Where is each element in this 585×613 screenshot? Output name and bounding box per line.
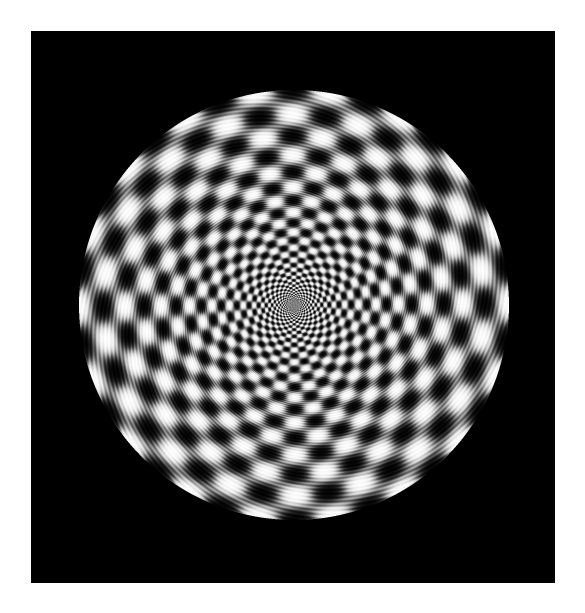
radial-grating-canvas <box>31 31 555 583</box>
stimulus-frame <box>31 31 555 583</box>
stimulus-page <box>0 0 585 613</box>
margin-right <box>555 0 585 613</box>
margin-bottom <box>0 583 585 613</box>
margin-left <box>0 0 31 613</box>
margin-top <box>0 0 585 31</box>
